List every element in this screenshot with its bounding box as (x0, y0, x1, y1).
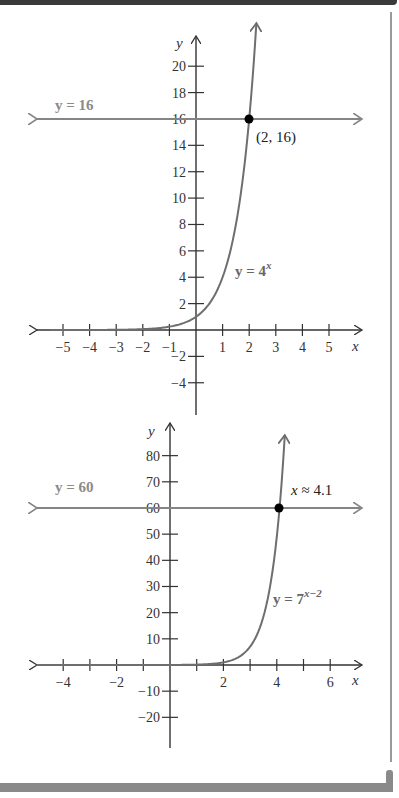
intersection-point (275, 504, 284, 513)
y-tick-label: 20 (146, 606, 160, 621)
x-tick-label: −4 (56, 675, 71, 690)
x-tick-label: −2 (109, 675, 124, 690)
point-label: x ≈ 4.1 (290, 482, 332, 498)
y-tick-label: 10 (146, 632, 160, 647)
y-tick-label: −10 (138, 684, 160, 699)
x-ticks: −4−2246 (56, 659, 334, 690)
y-tick-label: 80 (146, 449, 160, 464)
y-tick-label: 70 (146, 475, 160, 490)
point-label-rest: ≈ 4.1 (298, 482, 332, 498)
y-tick-label: 40 (146, 553, 160, 568)
y-tick-label: −20 (138, 710, 160, 725)
hline-label: y = 60 (55, 479, 94, 495)
curve-label: y = 7x−2 (273, 587, 322, 607)
y-axis-label: y (146, 423, 155, 439)
x-tick-label: 2 (220, 675, 227, 690)
graph-exponential-7x: −4−2246 −20−101020304050607080 y = 60 x … (0, 0, 399, 798)
x-axis-label: x (351, 672, 359, 688)
y-ticks: −20−101020304050607080 (138, 449, 178, 726)
x-tick-label: 4 (273, 675, 280, 690)
y-tick-label: 30 (146, 579, 160, 594)
curve-7x (37, 435, 285, 665)
x-tick-label: 6 (327, 675, 334, 690)
y-tick-label: 50 (146, 527, 160, 542)
